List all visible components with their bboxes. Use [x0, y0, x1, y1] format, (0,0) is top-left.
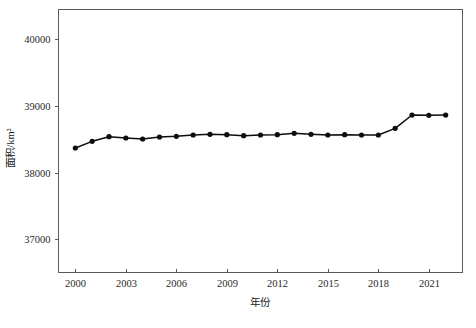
data-point-2019 — [393, 126, 398, 131]
plot-frame — [59, 10, 463, 273]
data-point-2006 — [174, 134, 179, 139]
x-tick-label-2012: 2012 — [267, 278, 288, 289]
data-point-2004 — [140, 136, 145, 141]
data-point-2000 — [73, 145, 78, 150]
x-axis-tick-labels: 20002003200620092012201520182021 — [65, 278, 440, 289]
y-tick-label-37000: 37000 — [24, 234, 50, 245]
data-point-2003 — [123, 135, 128, 140]
y-axis-title: 面积/km² — [5, 128, 16, 167]
data-point-2002 — [106, 134, 111, 139]
x-tick-label-2015: 2015 — [318, 278, 339, 289]
data-point-2014 — [308, 132, 313, 137]
y-tick-label-39000: 39000 — [24, 101, 50, 112]
data-point-2017 — [359, 132, 364, 137]
series-markers — [73, 112, 449, 150]
y-tick-label-40000: 40000 — [24, 34, 50, 45]
data-point-2020 — [409, 112, 414, 117]
data-point-2007 — [191, 132, 196, 137]
x-tick-label-2003: 2003 — [116, 278, 137, 289]
data-point-2008 — [207, 132, 212, 137]
data-point-2011 — [258, 132, 263, 137]
data-point-2018 — [376, 132, 381, 137]
y-tick-label-38000: 38000 — [24, 168, 50, 179]
data-point-2005 — [157, 134, 162, 139]
x-axis-ticks — [76, 269, 430, 273]
x-tick-label-2009: 2009 — [217, 278, 238, 289]
plot-canvas: 37000380003900040000 2000200320062009201… — [0, 0, 476, 328]
data-point-2001 — [90, 139, 95, 144]
x-tick-label-2000: 2000 — [65, 278, 86, 289]
data-point-2010 — [241, 133, 246, 138]
x-tick-label-2006: 2006 — [166, 278, 187, 289]
data-point-2009 — [224, 132, 229, 137]
x-tick-label-2021: 2021 — [419, 278, 440, 289]
data-point-2016 — [342, 132, 347, 137]
series-line-area — [75, 115, 445, 148]
x-tick-label-2018: 2018 — [368, 278, 389, 289]
data-point-2013 — [292, 131, 297, 136]
data-point-2022 — [443, 112, 448, 117]
data-point-2015 — [325, 132, 330, 137]
area-by-year-line-chart: 37000380003900040000 2000200320062009201… — [0, 0, 476, 328]
y-axis-tick-labels: 37000380003900040000 — [24, 34, 50, 245]
data-point-2012 — [275, 132, 280, 137]
x-axis-title: 年份 — [250, 296, 271, 308]
y-axis-ticks — [55, 40, 59, 240]
data-point-2021 — [426, 113, 431, 118]
